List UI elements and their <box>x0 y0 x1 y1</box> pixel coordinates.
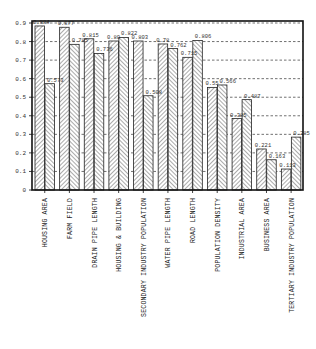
bar <box>281 169 291 190</box>
value-label: 0.80 <box>107 34 120 41</box>
category-label: POPULATION DENSITY <box>215 198 222 272</box>
value-label: 0.113 <box>279 162 296 169</box>
value-label: 0.221 <box>255 142 272 149</box>
bar <box>257 149 267 190</box>
value-label: 0.385 <box>230 112 247 119</box>
value-label: 0.285 <box>293 130 310 137</box>
category-labels: HOUSING AREAFARM FIELDDRAIN PIPE LENGTHH… <box>42 190 295 317</box>
category-label: BUSINESS AREA <box>264 198 271 251</box>
y-tick-label: 0.8 <box>15 39 26 46</box>
value-label: 0.762 <box>170 42 187 49</box>
value-label: 0.573 <box>47 77 64 84</box>
bar <box>45 84 55 190</box>
bar <box>84 39 94 190</box>
bar <box>183 57 193 190</box>
y-tick-label: 0.9 <box>15 20 26 27</box>
category-label: TERTIARY INDUSTRY POPULATION <box>289 198 296 313</box>
y-tick-label: 0.6 <box>15 76 26 83</box>
bar <box>119 37 129 190</box>
bar-chart: 00.10.20.30.40.50.60.70.80.9 0.8840.5730… <box>0 0 316 349</box>
value-label: 0.78 <box>156 37 169 44</box>
category-label: HOUSING AREA <box>42 198 49 247</box>
value-label: 0.736 <box>96 46 113 53</box>
value-label: 0.487 <box>244 93 261 100</box>
bar <box>144 96 154 190</box>
bar <box>267 160 277 190</box>
category-label: SECONDARY INDUSTRY POPULATION <box>141 198 148 317</box>
bars <box>35 26 301 190</box>
value-label: 0.566 <box>219 78 236 85</box>
value-label: 0.803 <box>132 34 149 41</box>
y-tick-label: 0.1 <box>15 168 26 175</box>
y-axis-ticks: 00.10.20.30.40.50.60.70.80.9 <box>15 20 32 194</box>
y-tick-label: 0 <box>22 187 26 194</box>
bar <box>94 53 104 190</box>
category-label: HOUSING & BUILDING <box>116 198 123 272</box>
value-label: 0.884 <box>33 19 50 26</box>
bar <box>158 44 168 190</box>
y-tick-label: 0.7 <box>15 57 26 64</box>
bar <box>217 85 227 190</box>
category-label: WATER PIPE LENGTH <box>165 198 172 268</box>
bar <box>35 26 45 190</box>
category-label: INDUSTRIAL AREA <box>239 198 246 260</box>
value-label: 0.715 <box>181 50 198 57</box>
value-label: 0.55 <box>205 80 218 87</box>
y-tick-label: 0.5 <box>15 94 26 101</box>
category-label: ROAD LENGTH <box>190 198 197 243</box>
bar <box>193 40 203 190</box>
value-label: 0.508 <box>146 89 163 96</box>
y-tick-label: 0.2 <box>15 150 26 157</box>
bar <box>60 27 70 190</box>
value-label: 0.163 <box>269 153 286 160</box>
bar <box>70 44 80 190</box>
category-label: DRAIN PIPE LENGTH <box>92 198 99 268</box>
y-tick-label: 0.3 <box>15 131 26 138</box>
bar <box>109 41 119 190</box>
category-label: FARM FIELD <box>67 198 74 239</box>
y-tick-label: 0.4 <box>15 113 26 120</box>
bar <box>232 119 242 190</box>
bar <box>134 41 144 190</box>
bar <box>168 49 178 190</box>
value-label: 0.806 <box>195 33 212 40</box>
bar <box>207 87 217 190</box>
value-label: 0.815 <box>82 32 99 39</box>
